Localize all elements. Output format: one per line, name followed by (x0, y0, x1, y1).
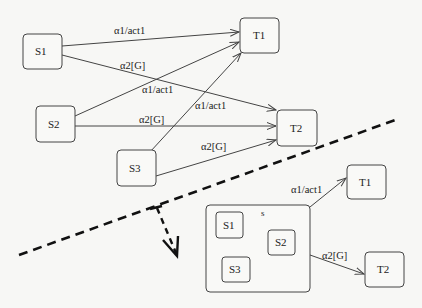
inner-node-s2[interactable]: S2 (268, 230, 295, 255)
label-s1-t1: α1/act1 (114, 25, 145, 36)
node-t1[interactable]: T1 (240, 18, 279, 53)
transformation-arrow-icon (150, 206, 178, 256)
node-s3[interactable]: S3 (117, 150, 156, 186)
edge-s1-t2 (62, 55, 276, 110)
node-s1[interactable]: S1 (23, 34, 62, 69)
superstate-label: s (261, 208, 265, 218)
edge-s1-t1 (62, 32, 239, 46)
label-s2-t1: α1/act1 (142, 84, 173, 95)
bottom-node-t1-label: T1 (359, 176, 371, 188)
bottom-node-t2[interactable]: T2 (365, 252, 404, 287)
label-s-t1: α1/act1 (291, 184, 322, 195)
bottom-node-t2-label: T2 (377, 263, 389, 275)
node-t2-label: T2 (290, 122, 302, 134)
node-t2[interactable]: T2 (277, 110, 317, 146)
inner-node-s2-label: S2 (275, 236, 287, 248)
node-s2[interactable]: S2 (36, 106, 75, 142)
label-s1-t2: α2[G] (120, 60, 145, 71)
inner-node-s3-label: S3 (229, 263, 241, 275)
top-edges (62, 32, 276, 176)
label-s3-t1: α1/act1 (195, 100, 226, 111)
label-s3-t2: α2[G] (201, 141, 226, 152)
inner-node-s1-label: S1 (223, 219, 235, 231)
node-s1-label: S1 (35, 45, 47, 57)
inner-node-s3[interactable]: S3 (222, 257, 250, 282)
inner-node-s1[interactable]: S1 (216, 212, 243, 238)
statechart-diagram: α1/act1 α2[G] α1/act1 α2[G] α1/act1 α2[G… (0, 0, 422, 308)
node-t1-label: T1 (253, 29, 265, 41)
label-s2-t2: α2[G] (139, 114, 164, 125)
bottom-node-t1[interactable]: T1 (347, 165, 386, 199)
node-s2-label: S2 (48, 118, 60, 130)
node-s3-label: S3 (129, 162, 141, 174)
label-s-t2: α2[G] (322, 250, 347, 261)
